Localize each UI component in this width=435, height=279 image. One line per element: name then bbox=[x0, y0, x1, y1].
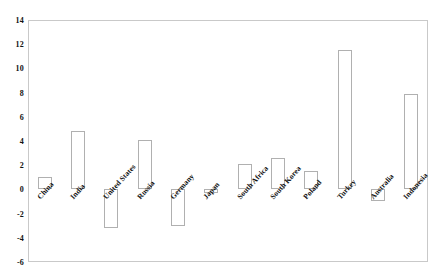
bar bbox=[371, 189, 385, 201]
y-axis-tick-label: 14 bbox=[16, 16, 24, 25]
y-axis-tick-label: -2 bbox=[17, 209, 24, 218]
bar bbox=[171, 189, 185, 225]
y-axis-tick-label: -4 bbox=[17, 233, 24, 242]
y-axis-tick-label: 0 bbox=[20, 185, 24, 194]
bar bbox=[338, 50, 352, 189]
bar-chart: 14121086420-2-4-6 ChinaIndiaUnited State… bbox=[0, 0, 435, 279]
y-axis-tick-label: 2 bbox=[20, 161, 24, 170]
bar bbox=[104, 189, 118, 228]
bar bbox=[38, 177, 52, 189]
y-axis-tick-label: 4 bbox=[20, 137, 24, 146]
bars-layer bbox=[28, 20, 428, 262]
bar bbox=[404, 94, 418, 190]
y-axis-tick-label: 6 bbox=[20, 112, 24, 121]
y-axis: 14121086420-2-4-6 bbox=[0, 20, 28, 262]
bar bbox=[204, 189, 218, 193]
bar bbox=[304, 171, 318, 189]
bar bbox=[238, 164, 252, 189]
bar bbox=[71, 131, 85, 189]
y-axis-tick-label: 8 bbox=[20, 88, 24, 97]
bar bbox=[138, 140, 152, 190]
y-axis-tick-label: 10 bbox=[16, 64, 24, 73]
bar bbox=[271, 158, 285, 189]
y-axis-tick-label: 12 bbox=[16, 40, 24, 49]
y-axis-tick-label: -6 bbox=[17, 258, 24, 267]
